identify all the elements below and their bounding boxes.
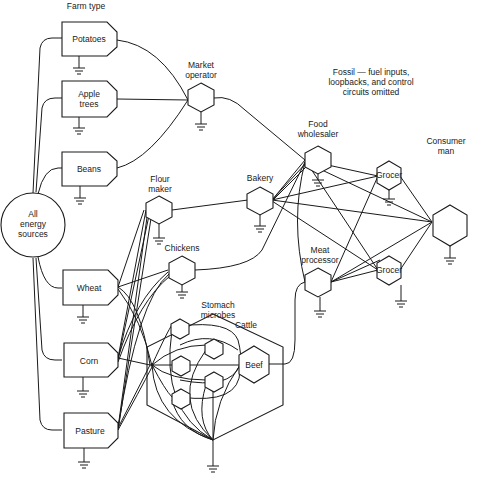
beef-node: Beef (239, 346, 269, 383)
farm-node-wheat: Wheat (63, 270, 118, 305)
svg-text:maker: maker (148, 184, 172, 194)
svg-text:trees: trees (80, 99, 99, 109)
svg-text:Potatoes: Potatoes (72, 34, 106, 44)
svg-text:Corn: Corn (80, 356, 99, 366)
svg-text:Flour: Flour (150, 174, 170, 184)
processor-node-meat-processor: Meat processor (301, 245, 338, 297)
heat-sink-icon (383, 190, 395, 205)
heat-sink-icon (444, 246, 456, 264)
omitted-note: Fossil — fuel inputs, loopbacks, and con… (328, 67, 413, 97)
heat-sink-icon (314, 297, 326, 317)
svg-text:Beans: Beans (77, 164, 101, 174)
svg-text:Consumer: Consumer (426, 136, 465, 146)
processor-node-market-operator: Market operator (185, 60, 217, 112)
heat-sink-icon (312, 174, 324, 186)
cattle-label: Cattle (235, 320, 257, 330)
processor-node-grocer-1: Grocer (376, 161, 402, 190)
heat-sink-icon (254, 215, 266, 232)
all-energy-sources-node: All energy sources (1, 193, 65, 257)
svg-text:Bakery: Bakery (247, 173, 274, 183)
svg-text:Meat: Meat (311, 245, 331, 255)
farm-node-pasture: Pasture (64, 413, 118, 448)
svg-text:Wheat: Wheat (77, 283, 102, 293)
svg-text:All: All (28, 209, 38, 219)
heat-sink-icon (77, 305, 89, 323)
svg-text:sources: sources (18, 229, 48, 239)
cattle-intake-junction (150, 363, 154, 367)
farm-node-beans: Beans (62, 152, 117, 186)
svg-text:Grocer: Grocer (376, 170, 402, 180)
heat-sink-icon (73, 117, 85, 134)
svg-text:Market: Market (188, 60, 215, 70)
svg-text:Fossil — fuel inputs,: Fossil — fuel inputs, (333, 67, 410, 77)
svg-text:energy: energy (20, 219, 47, 229)
svg-text:loopbacks, and control: loopbacks, and control (328, 77, 413, 87)
farm-node-potatoes: Potatoes (62, 22, 117, 56)
processor-node-bakery: Bakery (247, 173, 274, 215)
heat-sink-icon (74, 186, 86, 204)
farm-type-heading: Farm type (67, 1, 106, 11)
svg-text:Food: Food (308, 119, 328, 129)
svg-text:man: man (438, 146, 455, 156)
svg-text:operator: operator (185, 70, 217, 80)
heat-sink-icon (395, 285, 407, 307)
svg-text:Grocer: Grocer (376, 265, 402, 275)
heat-sink-icon (77, 377, 89, 397)
processor-node-consumer-man: Consumer man (426, 136, 467, 246)
svg-text:circuits omitted: circuits omitted (343, 87, 400, 97)
heat-sink-icon (176, 285, 188, 298)
energy-flow-diagram: Farm type Fossil — fuel inputs, loopback… (0, 0, 481, 486)
heat-sink-icon (195, 112, 207, 130)
svg-text:Chickens: Chickens (165, 243, 200, 253)
processor-node-chickens: Chickens (165, 243, 200, 285)
cattle-internal-flows (152, 325, 241, 458)
farm-node-corn: Corn (64, 343, 118, 377)
svg-text:processor: processor (301, 255, 338, 265)
stomach-microbes-label-2: microbes (201, 310, 235, 320)
heat-sink-icon (78, 448, 90, 468)
svg-text:Beef: Beef (245, 360, 263, 370)
svg-text:Apple: Apple (78, 89, 100, 99)
farm-node-apple-trees: Apple trees (62, 81, 117, 117)
processor-node-flour-maker: Flour maker (146, 174, 172, 224)
svg-text:Pasture: Pasture (75, 426, 105, 436)
heat-sink-icon (207, 458, 219, 472)
heat-sink-icon (73, 56, 85, 74)
stomach-microbes-label: Stomach (201, 300, 235, 310)
svg-text:wholesaler: wholesaler (297, 129, 339, 139)
heat-sink-icon (153, 224, 165, 244)
